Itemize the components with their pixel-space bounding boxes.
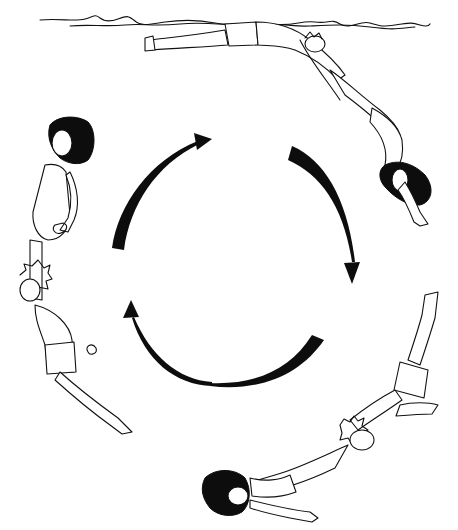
arrow-top-right [288, 146, 360, 284]
swimmer-pair-top [145, 22, 400, 138]
swim-trunks [394, 362, 428, 398]
swimmer-girl-right [370, 108, 431, 226]
swimmer-pair-left [20, 117, 132, 434]
cycle-arrows [112, 133, 360, 387]
swim-cycle-illustration [0, 0, 458, 530]
swim-trunks [225, 22, 258, 46]
swim-trunks [45, 342, 76, 374]
arrow-bottom-right [210, 335, 324, 387]
swimmer-pair-bottom [202, 292, 438, 522]
arrow-top-left [112, 133, 212, 250]
arrow-bottom-left [123, 300, 212, 386]
